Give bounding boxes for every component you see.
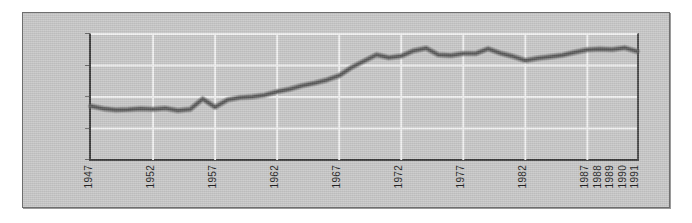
plot-area	[89, 33, 639, 161]
x-tick-label: 1947	[83, 165, 94, 188]
y-axis-labels: 0$10,000$20,000$30,000$40,000	[23, 13, 85, 183]
series-line	[91, 48, 637, 111]
x-tick-label: 1991	[629, 165, 640, 188]
x-tick-label: 1977	[455, 165, 466, 188]
x-tick-label: 1972	[393, 165, 404, 188]
x-tick-label: 1989	[604, 165, 615, 188]
chart-figure: 0$10,000$20,000$30,000$40,000 1947195219…	[22, 12, 670, 208]
x-tick-label: 1952	[145, 165, 156, 188]
x-tick-label: 1987	[579, 165, 590, 188]
x-tick-label: 1962	[269, 165, 280, 188]
x-tick-label: 1967	[331, 165, 342, 188]
data-series-line	[91, 48, 637, 111]
x-tick-label: 1982	[517, 165, 528, 188]
x-axis-labels: 1947195219571962196719721977198219871988…	[23, 163, 671, 209]
chart-svg	[91, 34, 637, 160]
x-tick-label: 1957	[207, 165, 218, 188]
x-tick-label: 1988	[592, 165, 603, 188]
x-tick-label: 1990	[617, 165, 628, 188]
